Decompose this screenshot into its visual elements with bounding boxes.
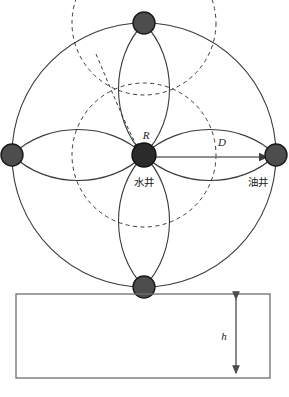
streamline-petal-left xyxy=(12,130,144,181)
right-production-well-node[interactable] xyxy=(265,144,287,166)
distance-label: D xyxy=(217,136,226,148)
left-production-well-node[interactable] xyxy=(1,144,23,166)
radius-label: R xyxy=(142,129,150,141)
streamline-petal-right xyxy=(144,130,276,181)
bottom-production-well-node[interactable] xyxy=(133,276,155,298)
reservoir-cross-section-rect xyxy=(16,294,270,378)
well-pattern-diagram: R D 水井 油井 h xyxy=(0,0,289,397)
center-well-label: 水井 xyxy=(134,176,154,188)
top-production-well-node[interactable] xyxy=(133,12,155,34)
thickness-label: h xyxy=(221,330,227,342)
center-injection-well-node[interactable] xyxy=(132,143,156,167)
streamline-petal-bottom xyxy=(119,155,170,287)
radius-indicator-arrow xyxy=(96,54,139,150)
figure-container: R D 水井 油井 h xyxy=(0,0,289,397)
right-well-label: 油井 xyxy=(248,176,268,188)
